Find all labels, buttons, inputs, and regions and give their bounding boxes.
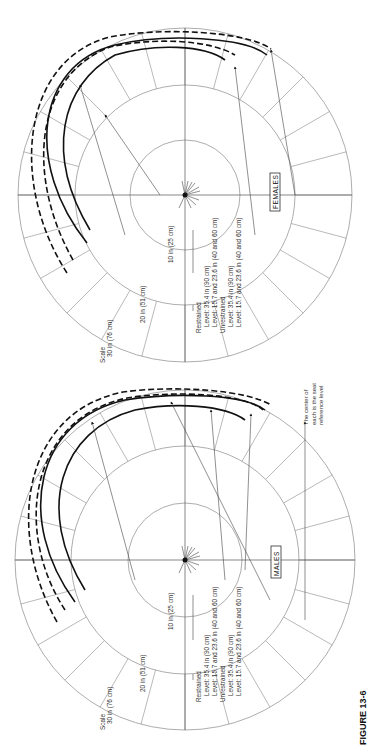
scale-label-20in: 20 in (51 cm) <box>139 286 147 323</box>
scale-label-30in: 30 in (76 cm) <box>106 687 114 724</box>
legend-restrained-high: Level: 35.4 in (90 cm) <box>203 266 211 327</box>
legend-unrestrained-high: Level: 35.4 in (90 cm) <box>227 266 235 327</box>
unrestrained-low-curve <box>36 394 263 610</box>
legend-restrained-high: Level: 35.4 in (90 cm) <box>203 635 211 696</box>
legend-unrestrained-heading: Unrestrained <box>219 665 226 702</box>
scale-label-10in: 10 in (25 cm) <box>167 226 175 263</box>
unrestrained-high-curve <box>44 41 235 260</box>
reach-arrow <box>211 410 225 580</box>
note-line-2: each is the seat <box>311 383 317 425</box>
scale-label-20in: 20 in (51 cm) <box>139 655 147 692</box>
note-line-3: reference level <box>318 386 324 425</box>
legend-unrestrained-low: Level: 15.7 and 23.6 in (40 and 60 cm) <box>235 587 243 696</box>
scale-title: Scale <box>99 347 106 363</box>
females-label: FEMALES <box>272 175 279 209</box>
legend-unrestrained-high: Level: 35.4 in (90 cm) <box>227 635 235 696</box>
note-line-1: The center of <box>303 389 309 425</box>
legend-unrestrained-heading: Unrestrained <box>219 296 226 333</box>
seat-reference-point <box>183 193 188 198</box>
legend-restrained-heading: Restrained <box>195 671 202 702</box>
centre-fan <box>179 546 200 573</box>
males-diagram: 10 in (25 cm) 20 in (51 cm) Scale 30 in … <box>15 389 355 730</box>
scale-label-30in: 30 in (76 cm) <box>106 320 114 357</box>
females-diagram: 10 in (25 cm) 20 in (51 cm) Scale 30 in … <box>18 28 352 363</box>
restrained-high-curve <box>59 406 245 590</box>
centre-fan <box>179 181 200 208</box>
figure-label: FIGURE 13-6 <box>358 690 368 745</box>
scale-title: Scale <box>99 714 106 730</box>
seat-reference-point <box>183 558 188 563</box>
males-label: MALES <box>273 551 280 576</box>
figure-label-group: FIGURE 13-6 <box>358 690 368 745</box>
legend-restrained-low: Level: 15.7 and 23.6 in (40 and 60 cm) <box>211 218 219 327</box>
scale-label-10in: 10 in (25 cm) <box>167 593 175 630</box>
seat-reference-note: The center of each is the seat reference… <box>303 383 324 425</box>
legend-restrained-heading: Restrained <box>195 302 202 333</box>
reach-arrow <box>245 414 251 570</box>
legend-unrestrained-low: Level: 15.7 and 23.6 in (40 and 60 cm) <box>235 218 243 327</box>
reach-arrow <box>105 115 160 195</box>
legend-restrained-low: Level: 15.7 and 23.6 in (40 and 60 cm) <box>211 587 219 696</box>
reach-arrow <box>171 402 270 600</box>
figure-canvas: 10 in (25 cm) 20 in (51 cm) Scale 30 in … <box>0 0 368 752</box>
reach-arrow <box>92 422 135 580</box>
